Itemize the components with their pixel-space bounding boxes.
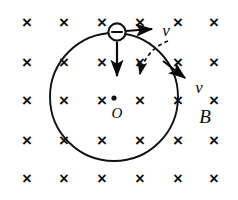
orbit-center-dot [111,95,116,100]
field-cross-icon: × [135,131,145,150]
field-cross-icon: × [22,53,32,72]
field-cross-icon: × [209,13,219,32]
field-cross-icon: × [59,13,69,32]
field-cross-icon: × [22,13,32,32]
field-cross-icon: × [97,13,107,32]
field-cross-icon: × [209,53,219,72]
negative-charge-particle [108,23,125,40]
field-cross-icon: × [173,13,183,32]
field-cross-icon: × [97,170,106,187]
velocity-label-top: v [162,21,170,40]
field-cross-icon: × [135,91,145,110]
diagram-svg: × × × × × × × × × × × × × × × × × × × × … [0,0,238,200]
velocity-arrow-top [126,29,152,31]
field-cross-icon: × [59,170,68,187]
orbit-center-label: O [112,105,123,121]
field-cross-icon: × [22,131,32,150]
field-cross-icon: × [173,170,182,187]
magnetic-field-label: B [199,106,211,127]
velocity-label-lower-right: v [195,78,203,97]
field-cross-icon: × [135,170,144,187]
field-cross-icon: × [97,91,107,110]
field-cross-icon: × [22,91,32,110]
field-cross-icon: × [135,53,145,72]
field-cross-icon: × [209,170,218,187]
physics-figure-canvas: × × × × × × × × × × × × × × × × × × × × … [0,0,238,200]
field-cross-icon: × [22,170,31,187]
field-cross-icon: × [97,53,107,72]
field-cross-icon: × [59,91,69,110]
field-cross-icon: × [173,131,183,150]
field-cross-icon: × [97,131,107,150]
field-cross-icon: × [209,131,219,150]
